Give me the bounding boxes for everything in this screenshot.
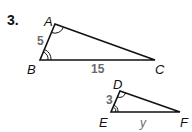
side-label-de: 3	[106, 93, 113, 107]
side-label-ab: 5	[37, 34, 44, 48]
side-label-bc: 15	[91, 62, 105, 76]
triangle-abc	[40, 24, 155, 60]
triangle-def	[111, 91, 180, 112]
similar-triangles-figure: 3. A B C 5 15 D E F 3 y	[0, 0, 192, 132]
vertex-label-a: A	[43, 14, 53, 29]
vertex-label-c: C	[155, 62, 165, 77]
vertex-label-d: D	[113, 77, 122, 92]
side-label-ef: y	[139, 116, 147, 130]
problem-number: 3.	[7, 12, 19, 28]
vertex-label-f: F	[180, 115, 189, 130]
angle-mark-b-inner	[44, 52, 49, 60]
vertex-label-b: B	[27, 62, 36, 77]
vertex-label-e: E	[99, 115, 108, 130]
